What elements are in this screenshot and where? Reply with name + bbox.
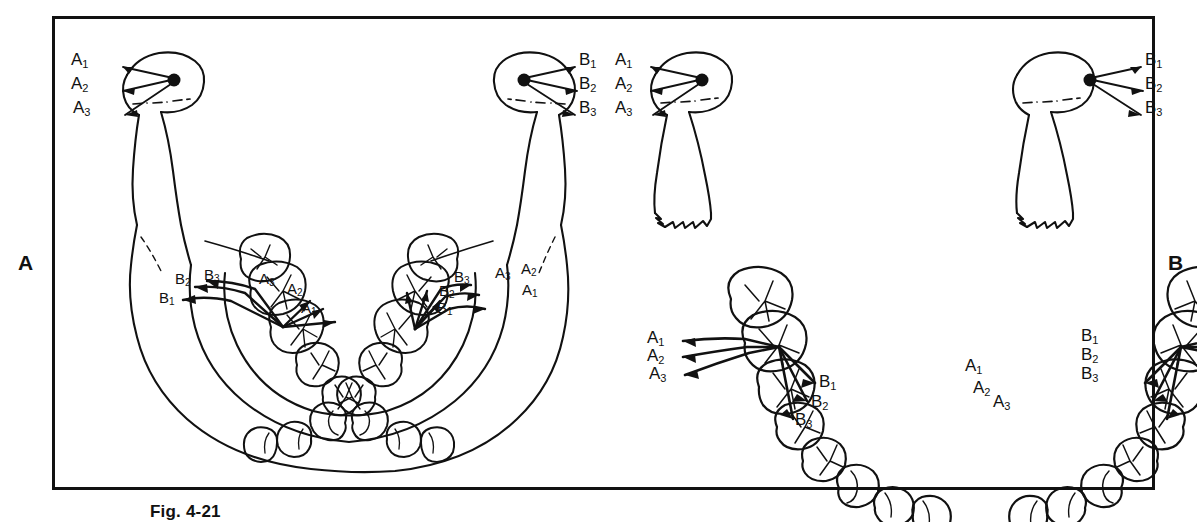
label-b-right-molar-a1: A1: [965, 357, 982, 374]
panel-label-b: B: [1168, 252, 1183, 273]
teeth-left-quadrant-panel-b: [728, 267, 950, 522]
teeth-right-quadrant-panel-a: [244, 234, 458, 462]
figure-artwork: [55, 19, 1158, 493]
condyle-center-dot-middle: [696, 74, 709, 87]
label-a-left-molar-b2: B2: [175, 271, 191, 286]
condyle-center-dot-a-right: [518, 74, 531, 87]
teeth-right-quadrant-panel-b: [1009, 267, 1197, 522]
label-middle-ramus-2: A2: [615, 75, 632, 92]
label-a-right-condyle-3: B3: [579, 99, 596, 116]
label-b-left-molar-a2: A2: [647, 347, 664, 364]
label-a-left-molar-a3: A3: [259, 271, 275, 286]
label-a-right-condyle-2: B2: [579, 75, 596, 92]
label-a-right-molar-b2: B2: [439, 283, 455, 298]
label-right-ramus-1: B1: [1145, 51, 1162, 68]
label-b-right-molar-b2: B2: [1081, 346, 1098, 363]
label-a-right-condyle-1: B1: [579, 51, 596, 68]
label-middle-ramus-1: A1: [615, 51, 632, 68]
label-middle-ramus-3: A3: [615, 99, 632, 116]
label-b-left-molar-b1: B1: [819, 373, 836, 390]
label-a-left-condyle-2: A2: [71, 75, 88, 92]
teeth-left-quadrant-panel-a: [240, 234, 454, 462]
isolated-ramus-middle: [651, 52, 732, 228]
label-b-right-molar-a3: A3: [993, 393, 1010, 410]
mandible-right-ramus: [494, 52, 575, 265]
label-a-left-molar-a2: A2: [287, 281, 303, 296]
label-b-right-molar-b3: B3: [1081, 365, 1098, 382]
label-a-left-condyle-1: A1: [71, 51, 88, 68]
condyle-center-dot-a-left: [168, 74, 181, 87]
arrowheads-b-right-molar: [1145, 338, 1197, 419]
mandible-left-ramus: [123, 52, 204, 265]
label-a-left-condyle-3: A3: [73, 99, 90, 116]
mandible-body-outline: [130, 265, 568, 472]
label-a-right-molar-a2: A2: [521, 261, 537, 276]
label-b-left-molar-a3: A3: [649, 365, 666, 382]
label-a-right-molar-a1: A1: [522, 282, 538, 297]
arrowheads-right-ramus: [1128, 67, 1143, 117]
label-a-right-molar-a3: A3: [495, 265, 511, 280]
pointer-rays-panel-b-right-molar: [1145, 338, 1197, 419]
label-right-ramus-3: B3: [1145, 99, 1162, 116]
label-a-right-molar-b3: B3: [454, 269, 470, 284]
figure-frame: A1 A2 A3 B1 B2 B3 A1 A2 A3 B1 B2 B3 B1 B…: [52, 16, 1155, 490]
label-a-left-molar-a1: A1: [301, 300, 317, 315]
label-right-ramus-2: B2: [1145, 75, 1162, 92]
label-b-right-molar-b1: B1: [1081, 327, 1098, 344]
label-a-left-molar-b3: B3: [204, 267, 220, 282]
label-b-left-molar-b2: B2: [811, 393, 828, 410]
panel-label-a: A: [18, 252, 33, 273]
label-b-left-molar-a1: A1: [647, 329, 664, 346]
condyle-center-dot-right: [1084, 74, 1097, 87]
figure-caption: Fig. 4-21: [150, 502, 221, 522]
label-a-left-molar-b1: B1: [159, 290, 175, 305]
label-b-right-molar-a2: A2: [973, 379, 990, 396]
label-a-right-molar-b1: B1: [437, 300, 453, 315]
label-b-left-molar-b3: B3: [795, 411, 812, 428]
isolated-ramus-right: [1013, 52, 1094, 228]
